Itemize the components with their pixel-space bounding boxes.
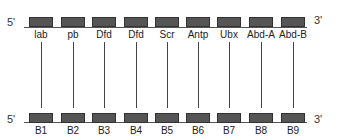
top-gene-box <box>29 17 53 27</box>
top-gene-box <box>155 17 179 27</box>
bottom-gene-box <box>186 113 210 123</box>
homology-connector-line <box>167 42 168 108</box>
bottom-three-prime-label: 3' <box>314 114 322 125</box>
top-gene-label: Abd-B <box>276 29 310 40</box>
top-gene-label: Antp <box>181 29 215 40</box>
bottom-gene-label: B5 <box>150 125 184 136</box>
bottom-gene-label: B4 <box>119 125 153 136</box>
bottom-gene-box <box>217 113 241 123</box>
top-gene-box <box>249 17 273 27</box>
homology-connector-line <box>198 42 199 108</box>
top-backbone-line <box>24 27 307 28</box>
bottom-gene-label: B3 <box>87 125 121 136</box>
bottom-gene-box <box>249 113 273 123</box>
homology-connector-line <box>261 42 262 108</box>
bottom-gene-box <box>124 113 148 123</box>
bottom-gene-label: B2 <box>56 125 90 136</box>
bottom-gene-box <box>61 113 85 123</box>
top-gene-label: Dfd <box>87 29 121 40</box>
top-gene-label: Ubx <box>212 29 246 40</box>
homology-connector-line <box>229 42 230 108</box>
bottom-gene-label: B1 <box>24 125 58 136</box>
top-three-prime-label: 3' <box>314 15 322 26</box>
bottom-gene-box <box>92 113 116 123</box>
top-gene-box <box>217 17 241 27</box>
bottom-gene-label: B6 <box>181 125 215 136</box>
bottom-gene-box <box>29 113 53 123</box>
top-five-prime-label: 5' <box>7 17 15 28</box>
top-gene-label: pb <box>56 29 90 40</box>
bottom-gene-box <box>281 113 305 123</box>
top-gene-label: Scr <box>150 29 184 40</box>
top-gene-box <box>281 17 305 27</box>
homology-connector-line <box>73 42 74 108</box>
bottom-gene-label: B7 <box>212 125 246 136</box>
top-gene-label: Dfd <box>119 29 153 40</box>
homology-connector-line <box>293 42 294 108</box>
top-gene-box <box>92 17 116 27</box>
homology-connector-line <box>104 42 105 108</box>
top-gene-box <box>186 17 210 27</box>
bottom-gene-label: B8 <box>244 125 278 136</box>
homology-connector-line <box>136 42 137 108</box>
top-gene-label: lab <box>24 29 58 40</box>
homology-connector-line <box>41 42 42 108</box>
bottom-gene-label: B9 <box>276 125 310 136</box>
bottom-gene-box <box>155 113 179 123</box>
top-gene-label: Abd-A <box>244 29 278 40</box>
top-gene-box <box>124 17 148 27</box>
bottom-five-prime-label: 5' <box>7 114 15 125</box>
top-gene-box <box>61 17 85 27</box>
